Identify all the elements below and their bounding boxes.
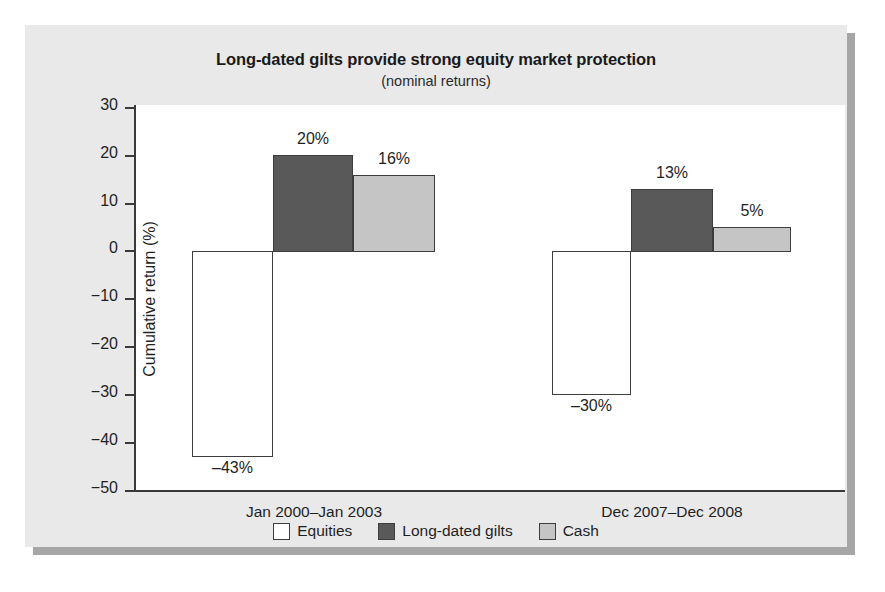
bar-label-cash-period2: 5% <box>713 202 791 220</box>
y-tick-30: 30 <box>125 107 134 109</box>
chart-subtitle: (nominal returns) <box>25 73 847 89</box>
y-tick-label-neg20: −20 <box>91 335 118 353</box>
x-axis-bottom-line <box>134 490 845 492</box>
y-tick-label-30: 30 <box>100 96 118 114</box>
y-tick-10: 10 <box>125 203 134 205</box>
legend-swatch-cash-icon <box>539 523 556 540</box>
panel-drop-shadow-right <box>847 33 855 555</box>
legend-label-cash: Cash <box>563 522 599 540</box>
y-tick-label-0: 0 <box>109 239 118 257</box>
plot-area: Cumulative return (%) 30 20 10 0 −10 −20… <box>134 105 845 492</box>
y-tick-label-20: 20 <box>100 144 118 162</box>
bar-label-gilts-period1: 20% <box>273 130 353 148</box>
bar-equities-period1[interactable] <box>192 251 273 457</box>
y-tick-label-neg40: −40 <box>91 431 118 449</box>
bar-label-equities-period2: –30% <box>552 397 631 415</box>
y-tick-0: 0 <box>125 250 134 252</box>
y-tick-label-neg30: −30 <box>91 383 118 401</box>
chart-legend: Equities Long-dated gilts Cash <box>25 522 847 540</box>
x-category-label-period2: Dec 2007–Dec 2008 <box>601 503 742 521</box>
legend-item-cash[interactable]: Cash <box>539 522 599 540</box>
legend-swatch-equities-icon <box>273 523 290 540</box>
y-tick-label-neg10: −10 <box>91 287 118 305</box>
bar-cash-period1[interactable] <box>353 175 435 252</box>
bar-gilts-period1[interactable] <box>273 155 353 252</box>
legend-label-long-dated-gilts: Long-dated gilts <box>402 522 512 540</box>
x-category-label-period1: Jan 2000–Jan 2003 <box>246 503 382 521</box>
bar-equities-period2[interactable] <box>552 251 631 395</box>
legend-item-equities[interactable]: Equities <box>273 522 352 540</box>
bar-cash-period2[interactable] <box>713 227 791 252</box>
y-tick-neg20: −20 <box>125 346 134 348</box>
bar-label-gilts-period2: 13% <box>631 164 713 182</box>
y-axis-title: Cumulative return (%) <box>141 221 159 377</box>
y-tick-label-10: 10 <box>100 192 118 210</box>
chart-figure-panel: Long-dated gilts provide strong equity m… <box>25 25 847 547</box>
y-tick-neg30: −30 <box>125 394 134 396</box>
legend-item-long-dated-gilts[interactable]: Long-dated gilts <box>378 522 512 540</box>
y-tick-label-neg50: −50 <box>91 479 118 497</box>
legend-swatch-long-dated-gilts-icon <box>378 523 395 540</box>
y-tick-20: 20 <box>125 155 134 157</box>
bar-gilts-period2[interactable] <box>631 189 713 252</box>
panel-drop-shadow-bottom <box>33 547 855 555</box>
bar-label-cash-period1: 16% <box>353 150 435 168</box>
y-axis-line <box>134 105 136 492</box>
bar-label-equities-period1: –43% <box>192 459 273 477</box>
chart-title: Long-dated gilts provide strong equity m… <box>25 50 847 69</box>
y-tick-neg50: −50 <box>125 490 134 492</box>
legend-label-equities: Equities <box>297 522 352 540</box>
y-tick-neg10: −10 <box>125 298 134 300</box>
y-tick-neg40: −40 <box>125 442 134 444</box>
